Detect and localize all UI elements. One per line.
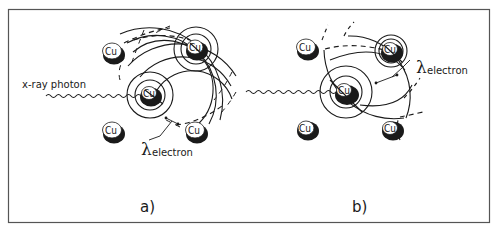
atom-a-top-left: Cu <box>103 43 126 65</box>
wavefronts-b <box>322 22 423 140</box>
svg-text:Cu: Cu <box>384 123 396 134</box>
lambda-subscript-b: electron <box>427 65 468 76</box>
panel-b: Cu Cu Cu Cu Cu <box>246 22 468 216</box>
lambda-symbol-b: λ <box>416 57 427 77</box>
lambda-subscript-a: electron <box>152 147 193 158</box>
svg-text:Cu: Cu <box>299 123 311 134</box>
xray-photon-label: x-ray photon <box>22 79 86 90</box>
atom-a-bottom-right: Cu <box>186 122 209 144</box>
svg-text:Cu: Cu <box>105 46 117 57</box>
panel-a: x-ray photon Cu Cu Cu Cu Cu <box>22 26 236 216</box>
svg-text:Cu: Cu <box>105 125 117 136</box>
atom-b-bottom-left: Cu <box>297 121 319 141</box>
lambda-pointer-a <box>149 118 178 140</box>
svg-text:Cu: Cu <box>384 44 396 55</box>
panel-a-label: a) <box>140 198 155 216</box>
diffraction-figure: x-ray photon Cu Cu Cu Cu Cu <box>0 0 494 231</box>
panel-b-label: b) <box>352 198 367 216</box>
atom-b-bottom-right: Cu <box>382 122 404 141</box>
atom-a-bottom-left: Cu <box>103 122 126 144</box>
xray-photon-wave-b <box>246 91 336 94</box>
figure-frame <box>9 10 490 223</box>
diagram-canvas: x-ray photon Cu Cu Cu Cu Cu <box>0 0 494 231</box>
atom-b-top-left: Cu <box>297 39 320 61</box>
svg-text:Cu: Cu <box>299 42 311 53</box>
svg-text:Cu: Cu <box>188 125 200 136</box>
lambda-symbol-a: λ <box>141 139 152 159</box>
atom-a-center: Cu <box>140 87 162 107</box>
atom-b-center: Cu <box>335 84 359 106</box>
